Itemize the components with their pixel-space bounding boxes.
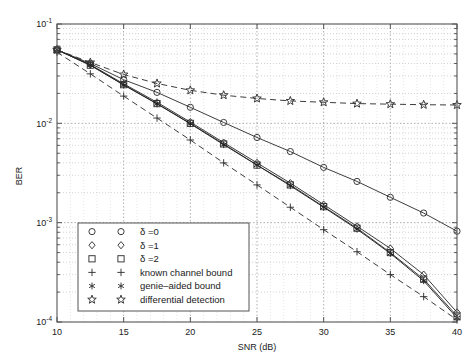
x-tick-label: 40 — [452, 327, 462, 337]
legend-item-label: δ =0 — [140, 226, 159, 237]
x-tick-label: 30 — [319, 327, 329, 337]
legend-item-label: known channel bound — [140, 267, 232, 278]
ber-vs-snr-chart: 10152025303540 10-110-210-310-4 SNR (dB)… — [0, 0, 473, 356]
x-tick-label: 10 — [52, 327, 62, 337]
x-tick-label: 25 — [252, 327, 262, 337]
legend: δ =0δ =1δ =2known channel boundgenie–aid… — [78, 223, 249, 311]
legend-item-label: genie–aided bound — [140, 280, 221, 291]
y-axis-title: BER — [14, 166, 24, 185]
legend-item-label: differential detection — [140, 294, 225, 305]
x-axis-title: SNR (dB) — [238, 342, 277, 352]
legend-item-label: δ =1 — [140, 240, 159, 251]
x-tick-label: 35 — [385, 327, 395, 337]
x-tick-label: 15 — [119, 327, 129, 337]
x-tick-label: 20 — [185, 327, 195, 337]
figure-container: 10152025303540 10-110-210-310-4 SNR (dB)… — [0, 0, 473, 356]
legend-item-label: δ =2 — [140, 253, 159, 264]
